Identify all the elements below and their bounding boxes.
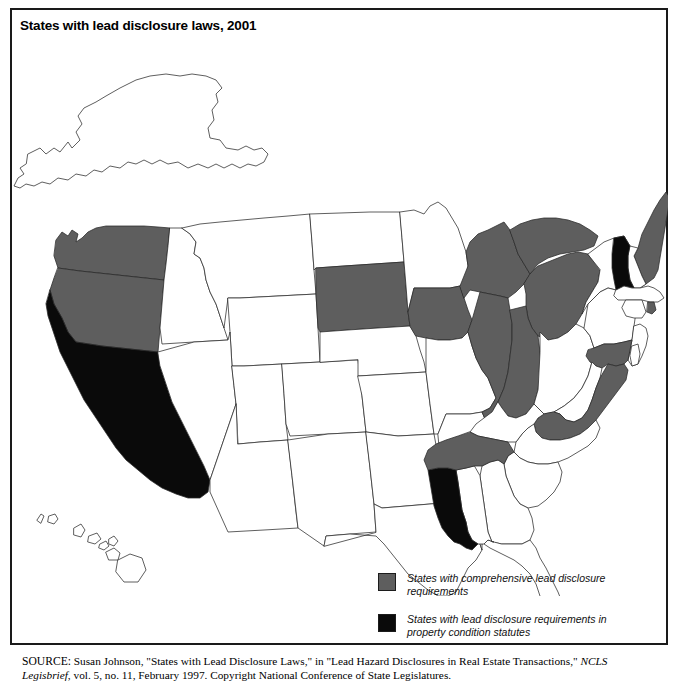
legend-item-property-condition: States with lead disclosure requirements… bbox=[378, 613, 648, 638]
source-label: SOURCE: bbox=[22, 655, 71, 668]
state-ND[interactable] bbox=[310, 212, 404, 270]
state-WY[interactable] bbox=[228, 294, 320, 366]
state-CO[interactable] bbox=[282, 360, 366, 436]
legend-item-comprehensive: States with comprehensive lead disclosur… bbox=[378, 572, 648, 597]
state-RI[interactable] bbox=[647, 302, 656, 314]
source-note: SOURCE: Susan Johnson, "States with Lead… bbox=[22, 655, 652, 682]
state-HI[interactable] bbox=[37, 514, 146, 582]
legend-swatch-gray-icon bbox=[378, 573, 396, 591]
state-AK[interactable] bbox=[14, 74, 268, 188]
legend-label-comprehensive: States with comprehensive lead disclosur… bbox=[407, 572, 642, 597]
us-choropleth-map bbox=[10, 36, 668, 596]
figure-title: States with lead disclosure laws, 2001 bbox=[20, 18, 256, 33]
map-legend: States with comprehensive lead disclosur… bbox=[378, 572, 648, 654]
source-text-after: , vol. 5, no. 11, February 1997. Copyrig… bbox=[68, 669, 451, 681]
state-DE[interactable] bbox=[630, 344, 640, 366]
state-SD[interactable] bbox=[316, 262, 410, 332]
state-MA[interactable] bbox=[614, 286, 664, 302]
state-KS[interactable] bbox=[358, 372, 434, 436]
legend-swatch-black-icon bbox=[378, 614, 396, 632]
state-NM[interactable] bbox=[288, 432, 376, 546]
state-UT[interactable] bbox=[232, 364, 288, 444]
legend-label-property-condition: States with lead disclosure requirements… bbox=[407, 613, 642, 638]
source-text-before: Susan Johnson, "States with Lead Disclos… bbox=[71, 655, 580, 667]
state-CT[interactable] bbox=[622, 300, 646, 318]
map-svg bbox=[10, 36, 668, 596]
